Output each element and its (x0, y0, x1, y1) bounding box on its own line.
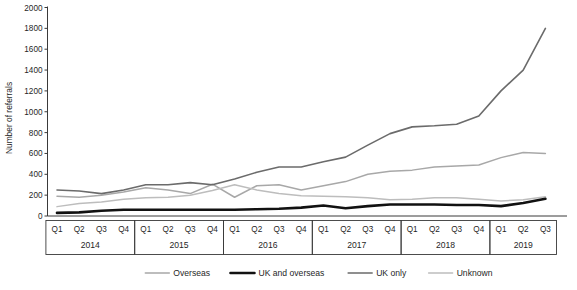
y-tick-label: 1400 (24, 66, 43, 75)
x-tick-label-quarter: Q4 (385, 225, 396, 234)
y-tick-label: 2000 (24, 4, 43, 13)
x-tick-label-quarter: Q4 (207, 225, 218, 234)
x-tick-label-quarter: Q3 (451, 225, 462, 234)
x-tick-label-quarter: Q3 (274, 225, 285, 234)
legend-label-overseas: Overseas (173, 268, 210, 278)
x-tick-label-quarter: Q4 (473, 225, 484, 234)
y-axis: 0200400600800100012001400160018002000 (24, 4, 47, 222)
x-axis: Q1Q2Q3Q42014Q1Q2Q3Q42015Q1Q2Q3Q42016Q1Q2… (46, 216, 567, 255)
x-tick-label-quarter: Q2 (518, 225, 529, 234)
x-tick-label-quarter: Q1 (229, 225, 240, 234)
series-lines (57, 28, 545, 213)
x-tick-label-quarter: Q3 (540, 225, 551, 234)
y-tick-label: 1200 (24, 87, 43, 96)
legend-label-unknown: Unknown (457, 268, 493, 278)
series-line-overseas (57, 152, 545, 197)
y-tick-label: 800 (29, 129, 43, 138)
referrals-line-chart: 0200400600800100012001400160018002000 Q1… (0, 0, 577, 290)
x-tick-label-quarter: Q4 (118, 225, 129, 234)
x-tick-label-quarter: Q1 (52, 225, 63, 234)
x-tick-label-quarter: Q1 (407, 225, 418, 234)
series-line-uk-only (57, 28, 545, 193)
x-tick-label-year: 2017 (347, 240, 366, 250)
legend-label-uk-and-overseas: UK and overseas (258, 268, 324, 278)
x-tick-label-quarter: Q1 (318, 225, 329, 234)
x-tick-label-quarter: Q1 (140, 225, 151, 234)
chart-figure: 0200400600800100012001400160018002000 Q1… (0, 0, 577, 290)
x-tick-label-year: 2014 (81, 240, 100, 250)
y-tick-label: 1000 (24, 108, 43, 117)
x-tick-label-quarter: Q3 (96, 225, 107, 234)
y-tick-label: 400 (29, 170, 43, 179)
x-tick-label-quarter: Q2 (429, 225, 440, 234)
y-tick-label: 600 (29, 149, 43, 158)
x-tick-label-quarter: Q4 (296, 225, 307, 234)
y-axis-title: Number of referrals (4, 82, 14, 154)
x-tick-label-year: 2015 (170, 240, 189, 250)
y-tick-label: 0 (38, 212, 43, 221)
x-tick-label-year: 2016 (258, 240, 277, 250)
x-tick-label-year: 2019 (514, 240, 533, 250)
x-tick-label-quarter: Q3 (362, 225, 373, 234)
y-tick-label: 1800 (24, 24, 43, 33)
series-line-uk-and-overseas (57, 199, 545, 213)
x-tick-label-quarter: Q2 (340, 225, 351, 234)
x-tick-label-quarter: Q3 (185, 225, 196, 234)
x-tick-label-quarter: Q2 (163, 225, 174, 234)
x-tick-label-quarter: Q2 (74, 225, 85, 234)
legend-label-uk-only: UK only (376, 268, 407, 278)
y-tick-label: 1600 (24, 45, 43, 54)
chart-legend: OverseasUK and overseasUK onlyUnknown (145, 268, 492, 278)
x-tick-label-quarter: Q2 (251, 225, 262, 234)
x-tick-label-quarter: Q1 (496, 225, 507, 234)
y-tick-label: 200 (29, 191, 43, 200)
x-tick-label-year: 2018 (436, 240, 455, 250)
